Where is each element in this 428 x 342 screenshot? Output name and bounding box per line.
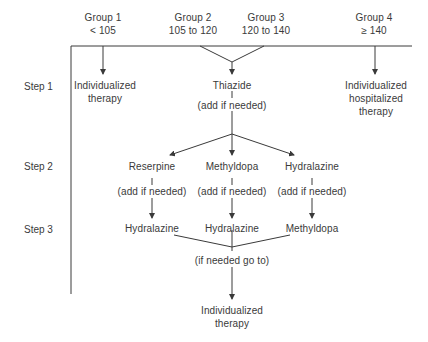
methyldopa-node: Methyldopa [206,160,259,173]
group-3-range: 120 to 140 [242,24,290,37]
group-1-name: Group 1 [85,11,122,24]
text-line: hospitalized [345,92,407,105]
step-1-label: Step 1 [24,80,53,93]
group-1-header: Group 1 < 105 [85,11,122,37]
thiazide-add-note: (add if needed) [198,99,267,112]
text-line: therapy [201,317,263,330]
group-3-name: Group 3 [242,11,290,24]
text-line: therapy [74,92,136,105]
thiazide-node: Thiazide [213,79,252,92]
final-individualized-therapy: Individualized therapy [201,304,263,330]
step3-hydralazine-left: Hydralazine [125,222,179,235]
text-line: Individualized [201,304,263,317]
step-3-label: Step 3 [24,223,53,236]
text-line: Individualized [74,79,136,92]
group1-individualized-therapy: Individualized therapy [74,79,136,105]
group-2-range: 105 to 120 [169,24,217,37]
group-4-header: Group 4 ≥ 140 [356,11,393,37]
text-line: therapy [345,105,407,118]
step3-methyldopa-right: Methyldopa [286,222,339,235]
hydralazine-node: Hydralazine [285,160,339,173]
group4-hospitalized-therapy: Individualized hospitalized therapy [345,79,407,118]
text-line: Individualized [345,79,407,92]
reserpine-node: Reserpine [129,160,175,173]
group-4-name: Group 4 [356,11,393,24]
if-needed-go-to-note: (if needed go to) [195,254,270,267]
group-2-name: Group 2 [169,11,217,24]
step3-hydralazine-center: Hydralazine [205,222,259,235]
group-4-range: ≥ 140 [356,24,393,37]
step-2-label: Step 2 [24,160,53,173]
reserpine-add-note: (add if needed) [118,185,187,198]
group-3-header: Group 3 120 to 140 [242,11,290,37]
methyldopa-add-note: (add if needed) [198,185,267,198]
group-1-range: < 105 [85,24,122,37]
hydralazine-add-note: (add if needed) [278,185,347,198]
group-2-header: Group 2 105 to 120 [169,11,217,37]
